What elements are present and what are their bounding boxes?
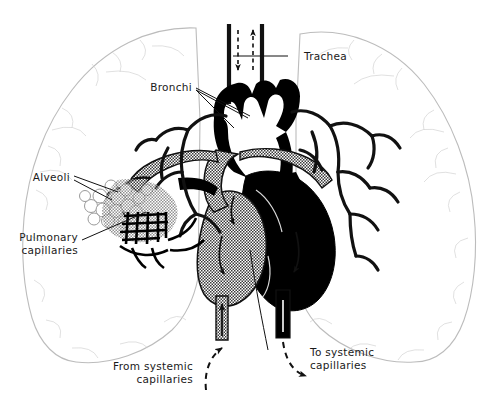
label-alveoli: Alveoli — [33, 171, 70, 183]
label-from-systemic-line1: From systemic — [113, 360, 193, 372]
label-pulmonary-capillaries-line2: capillaries — [21, 244, 78, 256]
label-from-systemic-line2: capillaries — [136, 373, 193, 385]
label-bronchi: Bronchi — [150, 81, 192, 93]
label-to-systemic-line1: To systemic — [309, 346, 374, 358]
pulmonary-circulation-diagram: Trachea Bronchi Alveoli Pulmonary capill… — [0, 0, 501, 409]
label-pulmonary-capillaries-line1: Pulmonary — [19, 231, 78, 243]
label-to-systemic-line2: capillaries — [310, 359, 367, 371]
label-trachea: Trachea — [303, 50, 347, 62]
